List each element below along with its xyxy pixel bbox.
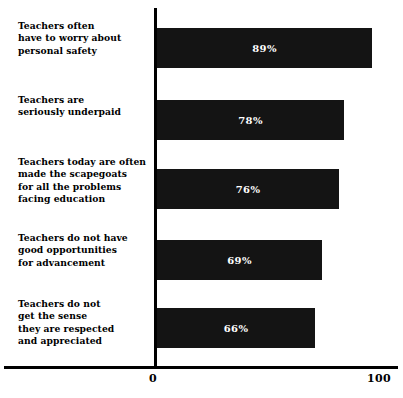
category-label-line: get the sense [18,310,158,322]
category-label-line: facing education [18,193,170,205]
category-label: Teachers are seriously underpaid [18,94,158,119]
category-label-line: Teachers are [18,94,158,106]
chart-row: Teachers do not get the sense they are r… [0,298,403,368]
category-label-line: Teachers do not [18,298,158,310]
category-label-line: Teachers often [18,20,158,32]
category-label-line: for advancement [18,257,158,269]
category-label: Teachers often have to worry about perso… [18,20,158,57]
bar-value-label: 78% [157,100,344,140]
horizontal-bar-chart: Teachers often have to worry about perso… [0,0,403,398]
category-label-line: for all the problems [18,181,170,193]
chart-row: Teachers often have to worry about perso… [0,20,403,76]
category-label: Teachers do not have good opportunities … [18,232,158,269]
bar[interactable]: 66% [157,308,315,348]
bar[interactable]: 69% [157,240,322,280]
bar-value-label: 76% [157,169,339,209]
category-label-line: seriously underpaid [18,106,158,118]
category-label-line: made the scapegoats [18,168,170,180]
category-label-line: good opportunities [18,244,158,256]
chart-row: Teachers today are often made the scapeg… [0,156,403,226]
category-label-line: personal safety [18,45,158,57]
x-axis-tick-label-min: 0 [149,372,157,385]
bar[interactable]: 89% [157,28,372,68]
category-label-line: and appreciated [18,335,158,347]
category-label-line: Teachers do not have [18,232,158,244]
bar-value-label: 89% [157,28,372,68]
category-label-line: they are respected [18,323,158,335]
bar-value-label: 66% [157,308,315,348]
chart-row: Teachers are seriously underpaid 78% [0,92,403,148]
category-label-line: Teachers today are often [18,156,170,168]
bar-value-label: 69% [157,240,322,280]
x-axis-tick-label-max: 100 [367,372,391,385]
category-label: Teachers today are often made the scapeg… [18,156,170,205]
category-label-line: have to worry about [18,32,158,44]
category-label: Teachers do not get the sense they are r… [18,298,158,347]
bar[interactable]: 76% [157,169,339,209]
bar[interactable]: 78% [157,100,344,140]
chart-row: Teachers do not have good opportunities … [0,232,403,288]
